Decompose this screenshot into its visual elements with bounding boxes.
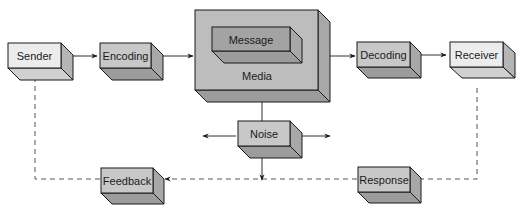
node-receiver: Receiver — [450, 42, 515, 78]
dashed-receiver-response — [418, 88, 477, 179]
feedback-label: Feedback — [103, 175, 152, 187]
node-response: Response — [358, 167, 421, 203]
response-label: Response — [359, 174, 409, 186]
media-label: Media — [242, 70, 273, 82]
receiver-label: Receiver — [455, 49, 499, 61]
noise-label: Noise — [250, 128, 278, 140]
node-sender: Sender — [8, 43, 73, 80]
communication-diagram: Sender Encoding Media Message Decoding R… — [0, 0, 523, 211]
node-decoding: Decoding — [357, 42, 421, 78]
node-feedback: Feedback — [101, 168, 164, 204]
node-message: Message — [212, 27, 302, 63]
message-label: Message — [229, 34, 274, 46]
node-encoding: Encoding — [100, 43, 163, 80]
dashed-feedback-sender — [35, 73, 100, 179]
encoding-label: Encoding — [103, 50, 149, 62]
decoding-label: Decoding — [360, 49, 406, 61]
sender-label: Sender — [17, 50, 53, 62]
node-noise: Noise — [238, 121, 302, 158]
